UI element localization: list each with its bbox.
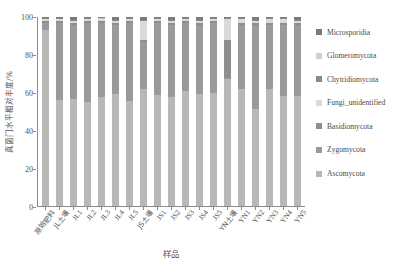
legend-item[interactable]: Ascomycota <box>316 166 412 182</box>
bar-slot <box>137 17 151 206</box>
legend-item[interactable]: Fungi_unidentified <box>316 95 412 111</box>
bar-segment-ascomycota <box>84 102 91 206</box>
stacked-bar[interactable] <box>56 17 63 206</box>
bar-segment-ascomycota <box>238 89 245 206</box>
bar-segment-ascomycota <box>140 89 147 206</box>
legend-item-label: Chytridiomycota <box>327 75 378 84</box>
stacked-bar[interactable] <box>266 17 273 206</box>
legend-item-label: Zygomycota <box>327 145 365 154</box>
bar-slot <box>81 17 95 206</box>
stacked-bar[interactable] <box>140 17 147 206</box>
y-tick-label: 80 <box>25 51 33 60</box>
legend-item-label: Glomeromycota <box>327 51 376 60</box>
bar-slot <box>234 17 248 206</box>
bar-segment-fungi-unidentified <box>224 19 231 40</box>
bar-slot <box>206 17 220 206</box>
stacked-bar[interactable] <box>98 17 105 206</box>
bar-segment-zygomycota <box>42 23 49 31</box>
bar-segment-zygomycota <box>140 42 147 89</box>
legend-item[interactable]: Microsporidia <box>316 24 412 40</box>
bar-slot <box>53 17 67 206</box>
y-tick-mark <box>33 207 36 208</box>
x-tick-label: YN5 <box>292 208 308 225</box>
y-tick-mark <box>33 17 36 18</box>
bars-container <box>38 17 305 206</box>
bar-slot <box>39 17 53 206</box>
bar-segment-ascomycota <box>70 99 77 206</box>
x-tick-label: JL3 <box>98 208 112 222</box>
legend-color-swatch <box>316 29 322 35</box>
bar-segment-zygomycota <box>154 23 161 95</box>
legend-color-swatch <box>316 123 322 129</box>
bar-slot <box>179 17 193 206</box>
plot-area <box>37 17 305 207</box>
bar-segment-zygomycota <box>182 23 189 91</box>
bar-slot <box>123 17 137 206</box>
bar-slot <box>276 17 290 206</box>
stacked-bar[interactable] <box>182 17 189 206</box>
bar-segment-ascomycota <box>294 96 301 206</box>
stacked-bar[interactable] <box>224 17 231 206</box>
bar-segment-zygomycota <box>168 25 175 98</box>
bar-segment-zygomycota <box>252 25 259 109</box>
x-tick-label: JL1 <box>70 208 84 222</box>
legend-color-swatch <box>316 100 322 106</box>
stacked-bar[interactable] <box>112 17 119 206</box>
bar-segment-ascomycota <box>210 93 217 206</box>
bar-segment-ascomycota <box>98 97 105 206</box>
x-tick-label: YN1 <box>236 208 252 225</box>
x-tick-label: JL4 <box>112 208 126 222</box>
legend-item[interactable]: Basidiomycota <box>316 118 412 134</box>
bar-segment-zygomycota <box>210 23 217 93</box>
x-tick-label: JL2 <box>84 208 98 222</box>
legend-color-swatch <box>316 147 322 153</box>
bar-segment-zygomycota <box>266 25 273 89</box>
fungal-abundance-stacked-bar-chart: 真菌门水平相对丰度/% 020406080100 原始肥料JL土壤JL1JL2J… <box>0 0 413 267</box>
stacked-bar[interactable] <box>154 17 161 206</box>
y-tick-label: 40 <box>25 127 33 136</box>
y-tick-mark <box>33 55 36 56</box>
stacked-bar[interactable] <box>280 17 287 206</box>
stacked-bar[interactable] <box>70 17 77 206</box>
legend-item-label: Microsporidia <box>327 28 370 37</box>
chart-legend: MicrosporidiaGlomeromycotaChytridiomycot… <box>316 24 412 189</box>
legend-color-swatch <box>316 171 322 177</box>
bar-segment-ascomycota <box>42 30 49 206</box>
x-tick-label: YN2 <box>250 208 266 225</box>
bar-segment-ascomycota <box>112 94 119 206</box>
x-tick-label: JS2 <box>168 208 182 222</box>
stacked-bar[interactable] <box>42 17 49 206</box>
bar-segment-zygomycota <box>56 23 63 100</box>
x-tick-label: JS3 <box>182 208 196 222</box>
stacked-bar[interactable] <box>294 17 301 206</box>
x-axis-tick-labels: 原始肥料JL土壤JL1JL2JL3JL4JL5JS土壤JS1JS2JS3JS4J… <box>37 208 305 250</box>
x-tick-label: JS4 <box>196 208 210 222</box>
bar-segment-ascomycota <box>126 101 133 206</box>
y-tick-label: 100 <box>21 13 33 22</box>
x-axis-title: 样品 <box>37 247 305 259</box>
bar-segment-zygomycota <box>98 23 105 96</box>
stacked-bar[interactable] <box>238 17 245 206</box>
stacked-bar[interactable] <box>126 17 133 206</box>
bar-slot <box>290 17 304 206</box>
stacked-bar[interactable] <box>252 17 259 206</box>
bar-segment-ascomycota <box>56 100 63 206</box>
bar-segment-ascomycota <box>154 95 161 207</box>
bar-segment-ascomycota <box>266 89 273 206</box>
bar-slot <box>95 17 109 206</box>
bar-segment-basidiomycota <box>224 40 231 78</box>
legend-item[interactable]: Zygomycota <box>316 142 412 158</box>
legend-item-label: Ascomycota <box>327 169 365 178</box>
legend-item[interactable]: Glomeromycota <box>316 48 412 64</box>
stacked-bar[interactable] <box>210 17 217 206</box>
bar-slot <box>248 17 262 206</box>
y-tick-mark <box>33 131 36 132</box>
stacked-bar[interactable] <box>84 17 91 206</box>
legend-item[interactable]: Chytridiomycota <box>316 71 412 87</box>
bar-segment-ascomycota <box>182 91 189 206</box>
stacked-bar[interactable] <box>196 17 203 206</box>
stacked-bar[interactable] <box>168 17 175 206</box>
bar-segment-ascomycota <box>196 94 203 206</box>
x-tick-label: YN4 <box>278 208 294 225</box>
bar-slot <box>165 17 179 206</box>
